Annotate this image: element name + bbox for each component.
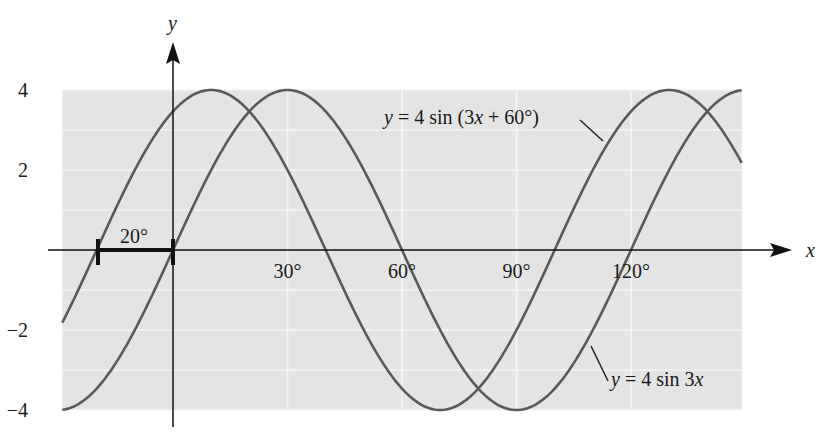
svg-text:y = 4 sin (3x + 60°): y = 4 sin (3x + 60°) [382,106,539,129]
annotation-y: y [609,368,620,391]
annotation-text: = 4 sin 3 [620,368,695,390]
phase-shift-label: 20° [120,225,148,247]
y-axis-label: y [166,12,177,35]
y-tick-label: −4 [7,399,28,421]
annotation-text: = 4 sin (3 [393,106,474,129]
annotation-y: y [382,106,393,129]
x-tick-label: 90° [503,260,531,282]
annotation-x: x [473,106,483,128]
x-tick-label: 120° [612,260,650,282]
y-tick-label: −2 [7,319,28,341]
sine-chart: 30°60°90°120°42−2−4 x y 20° y = 4 sin (3… [0,0,840,445]
y-tick-label: 2 [18,159,28,181]
annotation-x: x [694,368,704,390]
x-tick-label: 60° [388,260,416,282]
annotation-tail: + 60°) [483,106,539,129]
x-axis-label: x [805,239,815,261]
svg-text:y = 4 sin 3x: y = 4 sin 3x [609,368,704,391]
y-tick-label: 4 [18,79,28,101]
x-tick-label: 30° [274,260,302,282]
